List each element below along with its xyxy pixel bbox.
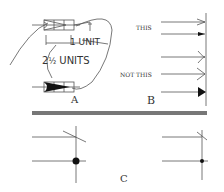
two-half-units-frac: ½ bbox=[48, 57, 56, 66]
one-unit-label: 1 UNIT bbox=[70, 38, 100, 47]
panel-c-label: C bbox=[120, 174, 128, 184]
filled-arrowhead bbox=[44, 82, 70, 92]
dot-terminator-left bbox=[73, 158, 80, 165]
panel-c-left bbox=[32, 126, 86, 183]
not-this-label: NOT THIS bbox=[120, 72, 152, 78]
two-half-units-suffix: UNITS bbox=[56, 55, 89, 66]
panel-c-right bbox=[162, 130, 208, 180]
diagram-canvas bbox=[0, 0, 224, 192]
panel-b-label: B bbox=[147, 95, 155, 106]
dot-terminator-right bbox=[200, 159, 204, 163]
two-half-units-label: 2½ UNITS bbox=[42, 56, 90, 66]
large-filled-arrow bbox=[198, 87, 206, 97]
panel-a-label: A bbox=[71, 95, 78, 105]
divider-band bbox=[32, 111, 207, 115]
small-filled-arrow bbox=[198, 32, 205, 36]
this-label: THIS bbox=[136, 25, 152, 31]
